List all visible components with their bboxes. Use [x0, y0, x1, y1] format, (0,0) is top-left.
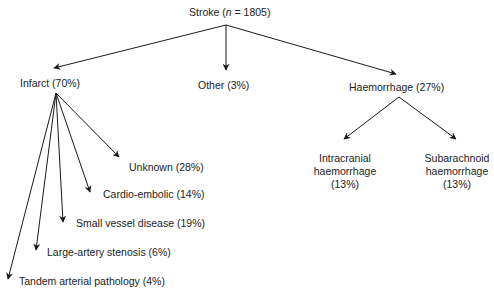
node-intracranial: Intracranial haemorrhage (13%) [305, 152, 385, 191]
subarachnoid-line3: (13%) [417, 178, 494, 191]
edge-haemorrhage-subarachnoid [399, 97, 456, 139]
subarachnoid-line1: Subarachnoid [417, 152, 494, 165]
edge-infarct-cardio-embolic [56, 93, 90, 192]
root-label-prefix: Stroke ( [189, 6, 226, 18]
edge-haemorrhage-intracranial [344, 97, 399, 139]
subarachnoid-line2: haemorrhage [417, 165, 494, 178]
node-stroke-root: Stroke (n = 1805) [189, 6, 270, 19]
node-subarachnoid: Subarachnoid haemorrhage (13%) [417, 152, 494, 191]
edge-infarct-large-artery [36, 93, 56, 250]
edge-infarct-unknown [56, 93, 119, 157]
node-cardio-embolic: Cardio-embolic (14%) [103, 188, 205, 201]
intracranial-line2: haemorrhage [305, 165, 385, 178]
root-label-suffix: = 1805) [232, 6, 271, 18]
intracranial-line1: Intracranial [305, 152, 385, 165]
edge-infarct-small-vessel [56, 93, 63, 222]
node-small-vessel: Small vessel disease (19%) [76, 217, 205, 230]
node-haemorrhage: Haemorrhage (27%) [349, 81, 444, 94]
node-infarct: Infarct (70%) [20, 77, 80, 90]
node-tandem: Tandem arterial pathology (4%) [19, 275, 165, 288]
node-other: Other (3%) [198, 79, 249, 92]
node-large-artery: Large-artery stenosis (6%) [47, 246, 171, 259]
node-unknown: Unknown (28%) [129, 161, 204, 174]
edge-stroke-infarct [54, 25, 226, 68]
edge-stroke-haemorrhage [226, 25, 396, 74]
intracranial-line3: (13%) [305, 178, 385, 191]
